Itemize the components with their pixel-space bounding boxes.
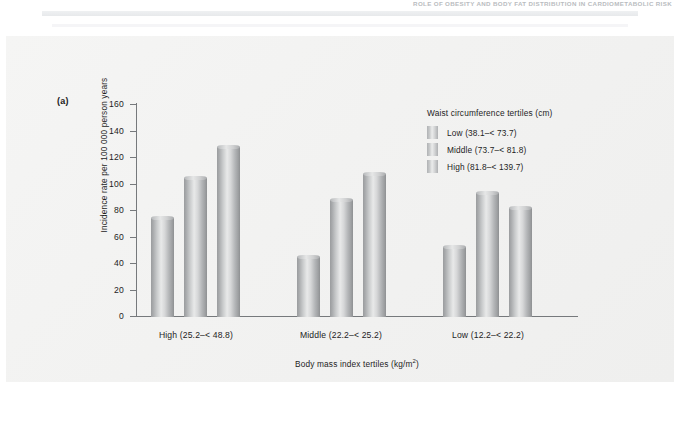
x-axis-title: Body mass index tertiles (kg/m2) (136, 358, 578, 369)
x-axis-title-end: ) (416, 359, 419, 369)
legend-swatch-high (427, 160, 438, 173)
y-tick-140 (130, 131, 136, 132)
legend-label-high: High (81.8–< 139.7) (447, 162, 523, 172)
y-tick-100 (130, 184, 136, 185)
bar-middle-bmi-low-wc (297, 256, 320, 317)
y-tick-40 (130, 263, 136, 264)
y-tick-label-0: 0 (88, 311, 124, 321)
y-tick-160 (130, 104, 136, 105)
x-group-label-middle: Middle (22.2–< 25.2) (276, 330, 406, 340)
y-tick-80 (130, 210, 136, 211)
bar-chart-plot-area: 160 140 120 100 80 60 40 20 0 Incidence … (0, 0, 680, 424)
y-axis-line (136, 103, 137, 317)
y-axis-title: Incidence rate per 100 000 person years (99, 45, 109, 265)
y-tick-0 (130, 316, 136, 317)
legend-label-low: Low (38.1–< 73.7) (447, 128, 517, 138)
chart-legend: Waist circumference tertiles (cm) Low (3… (427, 108, 552, 176)
y-tick-120 (130, 157, 136, 158)
legend-item-high: High (81.8–< 139.7) (427, 159, 552, 174)
y-tick-60 (130, 237, 136, 238)
legend-swatch-middle (427, 143, 438, 156)
legend-title: Waist circumference tertiles (cm) (427, 108, 552, 118)
y-tick-label-20: 20 (88, 285, 124, 295)
legend-item-low: Low (38.1–< 73.7) (427, 125, 552, 140)
bar-high-bmi-high-wc (217, 146, 240, 317)
x-axis-title-main: Body mass index tertiles (kg/m (295, 359, 412, 369)
bar-middle-bmi-middle-wc (330, 199, 353, 317)
legend-item-middle: Middle (73.7–< 81.8) (427, 142, 552, 157)
legend-swatch-low (427, 126, 438, 139)
legend-label-middle: Middle (73.7–< 81.8) (447, 145, 526, 155)
bar-low-bmi-high-wc (509, 207, 532, 317)
y-tick-20 (130, 290, 136, 291)
bar-high-bmi-low-wc (151, 217, 174, 317)
bar-low-bmi-low-wc (443, 246, 466, 317)
bar-middle-bmi-high-wc (363, 173, 386, 317)
bar-high-bmi-middle-wc (184, 177, 207, 317)
x-group-label-low: Low (12.2–< 22.2) (423, 330, 553, 340)
x-group-label-high: High (25.2–< 48.8) (131, 330, 261, 340)
bar-low-bmi-middle-wc (476, 192, 499, 318)
